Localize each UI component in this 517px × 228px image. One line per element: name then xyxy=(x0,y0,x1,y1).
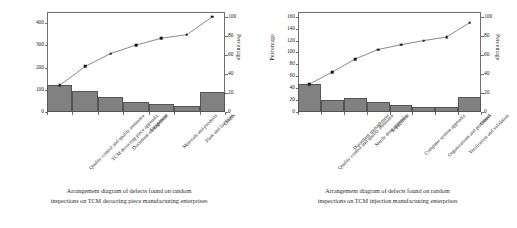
y2-tick-label: 20 xyxy=(484,90,489,95)
axis-title-percentage-left-right: Percentage xyxy=(269,34,275,61)
x-category-labels-right: Quality control and quality assuranceDoc… xyxy=(298,113,481,183)
y2-tick-mark xyxy=(225,93,228,94)
y2-tick-mark xyxy=(481,55,484,56)
x-category-label: Others xyxy=(479,113,492,126)
y-tick-mark xyxy=(45,23,48,24)
y-tick-label: 140 xyxy=(287,26,295,31)
caption-right: Arrangement diagram of defects found on … xyxy=(258,186,517,205)
y2-tick-label: 20 xyxy=(228,90,233,95)
y2-tick-label: 100 xyxy=(484,14,492,19)
pareto-figure-pair: 0100200300400 020406080100 Percentage Qu… xyxy=(0,0,517,228)
axis-title-percentage-right-left: Percentage xyxy=(236,34,242,61)
caption-left-line1: Arrangement diagram of defects found on … xyxy=(0,186,258,196)
x-tick-mark xyxy=(225,112,226,115)
y-tick-label: 400 xyxy=(36,20,44,25)
caption-left: Arrangement diagram of defects found on … xyxy=(0,186,258,205)
caption-right-line1: Arrangement diagram of defects found on … xyxy=(258,186,517,196)
x-category-labels-left: Quality control and quality assuranceTCM… xyxy=(47,113,225,183)
y2-tick-label: 60 xyxy=(228,52,233,57)
cumulative-marker xyxy=(109,52,112,55)
y-tick-label: 100 xyxy=(287,50,295,55)
cumulative-marker xyxy=(160,37,163,40)
caption-right-line2: inspections on TCM injection manufacturi… xyxy=(258,196,517,206)
y-tick-label: 200 xyxy=(36,65,44,70)
y2-tick-label: 40 xyxy=(228,71,233,76)
y-tick-label: 40 xyxy=(290,85,295,90)
y2-tick-label: 80 xyxy=(228,33,233,38)
plot-area-right: 020406080100120140160 020406080100 xyxy=(298,12,481,112)
y-tick-label: 120 xyxy=(287,38,295,43)
y2-tick-mark xyxy=(481,17,484,18)
cumulative-markers-right xyxy=(298,12,481,112)
y2-tick-mark xyxy=(481,36,484,37)
x-tick-mark xyxy=(481,112,482,115)
y2-tick-mark xyxy=(225,36,228,37)
cumulative-marker xyxy=(354,58,357,61)
y-tick-mark xyxy=(45,68,48,69)
y-tick-label: 100 xyxy=(36,87,44,92)
y2-tick-mark xyxy=(225,55,228,56)
cumulative-marker xyxy=(84,65,87,68)
y-tick-mark xyxy=(296,29,299,30)
plot-area-left: 0100200300400 020406080100 xyxy=(47,12,225,112)
cumulative-marker xyxy=(400,43,403,46)
cumulative-marker xyxy=(468,21,471,24)
y-tick-mark xyxy=(296,64,299,65)
cumulative-marker xyxy=(186,33,189,36)
y-tick-mark xyxy=(45,45,48,46)
cumulative-marker xyxy=(377,48,380,51)
x-category-label: Computer system appendix xyxy=(423,113,466,156)
cumulative-markers-left xyxy=(47,12,225,112)
caption-left-line2: inspections on TCM decocting piece manuf… xyxy=(0,196,258,206)
y-tick-mark xyxy=(296,52,299,53)
cumulative-marker xyxy=(331,71,334,74)
y-tick-mark xyxy=(45,90,48,91)
cumulative-marker xyxy=(423,39,426,42)
y2-tick-mark xyxy=(481,93,484,94)
y-tick-label: 160 xyxy=(287,14,295,19)
y2-tick-mark xyxy=(481,74,484,75)
y-tick-mark xyxy=(296,41,299,42)
y-tick-mark xyxy=(296,100,299,101)
y2-tick-label: 100 xyxy=(228,14,236,19)
y2-tick-label: 80 xyxy=(484,33,489,38)
cumulative-marker xyxy=(308,83,311,86)
x-category-label: Quality control and quality assurance xyxy=(337,113,394,170)
cumulative-marker xyxy=(211,16,214,19)
y-tick-label: 80 xyxy=(290,62,295,67)
y2-tick-label: 60 xyxy=(484,52,489,57)
y2-tick-mark xyxy=(225,74,228,75)
cumulative-marker xyxy=(445,36,448,39)
panel-tcm-decocting-piece: 0100200300400 020406080100 Percentage Qu… xyxy=(0,0,258,228)
cumulative-marker xyxy=(58,84,61,87)
y-tick-label: 20 xyxy=(290,97,295,102)
y2-tick-label: 40 xyxy=(484,71,489,76)
y-tick-mark xyxy=(296,76,299,77)
y-tick-mark xyxy=(296,88,299,89)
y-tick-label: 60 xyxy=(290,74,295,79)
y2-tick-mark xyxy=(225,17,228,18)
panel-tcm-injection: 020406080100120140160 020406080100 Perce… xyxy=(258,0,517,228)
axis-title-percentage-right-right: Percentage xyxy=(495,34,501,61)
x-category-label: Others xyxy=(223,113,236,126)
cumulative-marker xyxy=(135,44,138,47)
y-tick-mark xyxy=(296,17,299,18)
y-tick-label: 300 xyxy=(36,43,44,48)
